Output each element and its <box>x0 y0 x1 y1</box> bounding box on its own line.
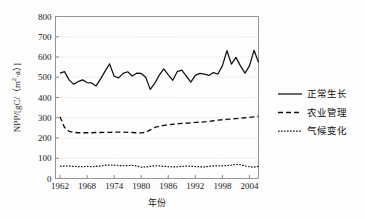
y-axis-title-text: NPP/[gC/（m2·a）] <box>10 63 22 132</box>
y-tick-label: 400 <box>38 93 52 103</box>
npp-line-chart: 0100200300400500600700800 19621968197419… <box>0 0 365 219</box>
chart-figure: 0100200300400500600700800 19621968197419… <box>0 0 365 219</box>
x-tick-label: 1998 <box>213 181 232 191</box>
y-tick-label: 800 <box>38 12 52 22</box>
x-axis-title: 年份 <box>148 197 166 208</box>
x-tick-label: 1986 <box>159 181 178 191</box>
x-tick-label: 1980 <box>132 181 151 191</box>
x-tick-label: 1968 <box>78 181 97 191</box>
y-tick-label: 500 <box>38 72 52 82</box>
chart-legend: 正常生长农业管理气候变化 <box>278 88 347 136</box>
y-axis-title: NPP/[gC/（m2·a）] <box>10 63 22 132</box>
legend-label[interactable]: 农业管理 <box>307 107 347 118</box>
legend-label[interactable]: 气候变化 <box>307 125 347 136</box>
legend-label[interactable]: 正常生长 <box>307 88 347 99</box>
y-tick-label: 300 <box>38 113 52 123</box>
y-tick-label: 200 <box>38 133 52 143</box>
x-tick-label: 1962 <box>51 181 69 191</box>
series-line <box>60 50 258 89</box>
x-tick-label: 2004 <box>240 181 259 191</box>
x-axis-tick-labels: 19621968197419801986199219982004 <box>51 181 259 191</box>
y-tick-label: 600 <box>38 52 52 62</box>
y-axis-tick-labels: 0100200300400500600700800 <box>38 12 52 184</box>
y-tick-label: 700 <box>38 32 52 42</box>
y-tick-label: 100 <box>38 153 52 163</box>
series-line <box>60 164 258 167</box>
series-group <box>60 50 258 167</box>
x-tick-label: 1974 <box>105 181 124 191</box>
series-line <box>60 117 258 133</box>
x-tick-label: 1992 <box>186 181 204 191</box>
